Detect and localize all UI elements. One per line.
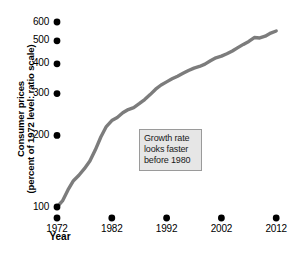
annotation-line-3: before 1980: [144, 155, 197, 166]
x-tick-label-2012: 2012: [256, 223, 296, 234]
y-tick-dot-600: [54, 19, 61, 26]
x-tick-label-2002: 2002: [201, 223, 241, 234]
annotation-line-2: looks faster: [144, 144, 197, 155]
data-line-0: [57, 31, 276, 207]
y-tick-dot-100: [54, 204, 61, 211]
x-tick-marks: [54, 215, 280, 222]
y-tick-label-500: 500: [15, 34, 49, 45]
y-tick-dot-200: [54, 132, 61, 139]
y-tick-dot-400: [54, 60, 61, 67]
annotation-line-1: Growth rate: [144, 133, 197, 144]
x-tick-dot-1992: [163, 215, 170, 222]
y-tick-label-200: 200: [15, 129, 49, 140]
y-tick-label-400: 400: [15, 57, 49, 68]
x-tick-dot-1972: [54, 215, 61, 222]
x-tick-dot-2002: [218, 215, 225, 222]
annotation-callout: Growth rate looks faster before 1980: [139, 129, 202, 171]
y-tick-dot-500: [54, 37, 61, 44]
y-tick-label-100: 100: [15, 201, 49, 212]
x-axis-title: Year: [40, 231, 80, 242]
y-tick-dot-300: [54, 90, 61, 97]
y-tick-marks: [54, 19, 61, 211]
chart-figure: Consumer prices (percent of 1972 level: …: [0, 0, 306, 264]
x-tick-dot-1982: [108, 215, 115, 222]
x-tick-label-1982: 1982: [92, 223, 132, 234]
x-tick-dot-2012: [273, 215, 280, 222]
y-tick-label-300: 300: [15, 87, 49, 98]
series-group: [57, 31, 276, 207]
y-tick-label-600: 600: [15, 16, 49, 27]
x-tick-label-1992: 1992: [147, 223, 187, 234]
